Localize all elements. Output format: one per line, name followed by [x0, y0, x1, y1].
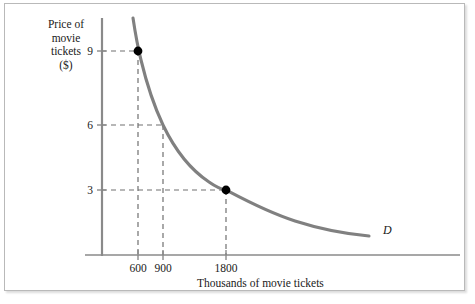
- data-point-600-9: [134, 47, 143, 56]
- x-axis-title: Thousands of movie tickets: [197, 277, 324, 291]
- y-axis-title-line-2: movie: [35, 32, 97, 46]
- y-axis-title-line-4: ($): [35, 59, 97, 73]
- y-tick-label-6: 6: [73, 119, 93, 131]
- demand-curve: [133, 18, 369, 236]
- y-tick-label-3: 3: [73, 184, 93, 196]
- y-axis-title-line-1: Price of: [35, 18, 97, 32]
- x-tick-label-900: 900: [143, 262, 183, 274]
- demand-curve-label: D: [383, 223, 392, 238]
- data-point-1800-3: [222, 186, 231, 195]
- x-tick-label-1800: 1800: [206, 262, 246, 274]
- figure-frame: Price of movie tickets ($) 9 6 3 600 900…: [4, 3, 465, 291]
- y-tick-label-9: 9: [73, 45, 93, 57]
